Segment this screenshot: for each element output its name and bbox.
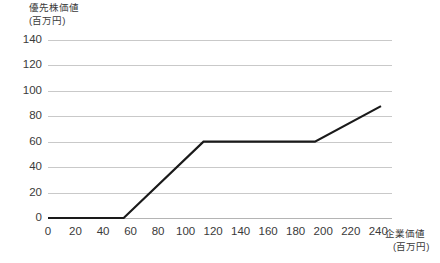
y-tick-label-40: 40 [29, 161, 42, 173]
x-tick-label-160: 160 [259, 226, 278, 238]
x-tick-label-120: 120 [204, 226, 223, 238]
chart-container: 優先株価値 (百万円) 企業価値 (百万円) 02040608010012014… [0, 0, 440, 263]
y-axis-title: 優先株価値 (百万円) [29, 2, 79, 27]
series-line-0 [48, 106, 381, 218]
x-tick-label-60: 60 [124, 226, 137, 238]
x-tick-label-20: 20 [69, 226, 82, 238]
x-tick-label-220: 220 [341, 226, 360, 238]
y-tick-label-140: 140 [23, 34, 42, 46]
x-axis-title: 企業価値 (百万円) [385, 228, 429, 253]
y-axis-title-text: 優先株価値 [29, 2, 79, 13]
x-tick-label-140: 140 [231, 226, 250, 238]
x-axis-title-unit: (百万円) [385, 241, 429, 254]
x-tick-label-240: 240 [369, 226, 388, 238]
plot-area: 020406080100120140 020406080100120140160… [48, 40, 392, 218]
x-tick-label-80: 80 [152, 226, 165, 238]
x-tick-label-100: 100 [176, 226, 195, 238]
y-tick-label-80: 80 [29, 111, 42, 123]
y-tick-label-0: 0 [36, 212, 42, 224]
y-tick-label-100: 100 [23, 85, 42, 97]
y-tick-label-60: 60 [29, 136, 42, 148]
y-tick-label-120: 120 [23, 60, 42, 72]
x-tick-label-180: 180 [286, 226, 305, 238]
x-tick-label-0: 0 [45, 226, 51, 238]
x-axis-title-text: 企業価値 [385, 228, 425, 239]
y-tick-label-20: 20 [29, 187, 42, 199]
data-series-line [48, 40, 392, 218]
y-axis-title-unit: (百万円) [29, 15, 65, 26]
x-tick-label-40: 40 [97, 226, 110, 238]
x-tick-label-200: 200 [314, 226, 333, 238]
